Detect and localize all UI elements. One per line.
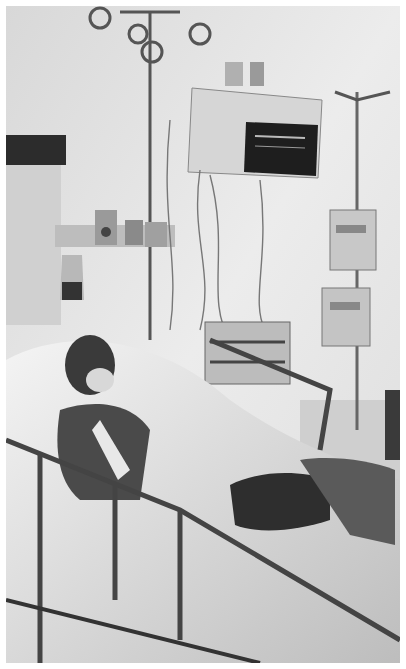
monitor-screen [244,122,318,176]
wall-panel [6,165,61,325]
wall-shelf [6,135,66,165]
infusion-pump-upper [330,210,376,270]
icu-photograph [6,6,400,663]
blood-collection-bag [60,255,84,300]
photo-frame [0,0,406,669]
photo-illustration [6,6,400,663]
endotracheal-tube [86,368,114,392]
waste-bin [385,390,400,460]
infusion-pump-lower [322,288,370,346]
